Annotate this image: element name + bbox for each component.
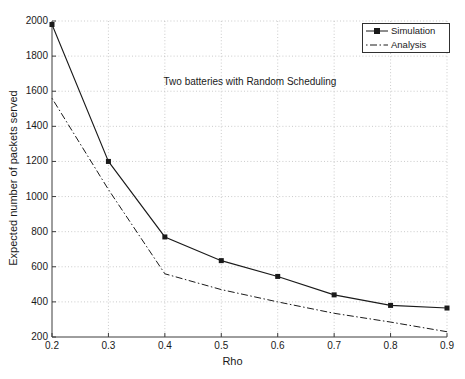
legend-entry-simulation[interactable]: Simulation bbox=[363, 24, 449, 38]
x-tick-label: 0.2 bbox=[32, 341, 72, 351]
chart-legend[interactable]: Simulation Analysis bbox=[362, 23, 450, 53]
legend-swatch-simulation bbox=[363, 24, 391, 38]
x-tick-label: 0.9 bbox=[427, 341, 465, 351]
x-tick-label: 0.7 bbox=[314, 341, 354, 351]
y-axis-label: Expected number of packets served bbox=[7, 83, 19, 273]
legend-swatch-analysis bbox=[363, 38, 391, 52]
plot-title: Two batteries with Random Scheduling bbox=[140, 76, 360, 87]
x-tick-label: 0.4 bbox=[145, 341, 185, 351]
legend-entry-analysis[interactable]: Analysis bbox=[363, 38, 449, 52]
plot-canvas bbox=[0, 0, 465, 379]
legend-label-simulation: Simulation bbox=[391, 26, 435, 36]
x-tick-label: 0.6 bbox=[258, 341, 298, 351]
chart-figure: 200400600800100012001400160018002000 0.2… bbox=[0, 0, 465, 379]
legend-label-analysis: Analysis bbox=[391, 40, 426, 50]
y-axis-label-wrapper: Expected number of packets served bbox=[4, 0, 22, 379]
x-axis-label: Rho bbox=[0, 355, 465, 367]
x-tick-label: 0.5 bbox=[201, 341, 241, 351]
x-tick-label: 0.3 bbox=[88, 341, 128, 351]
x-tick-label: 0.8 bbox=[371, 341, 411, 351]
plot-background bbox=[52, 21, 447, 337]
